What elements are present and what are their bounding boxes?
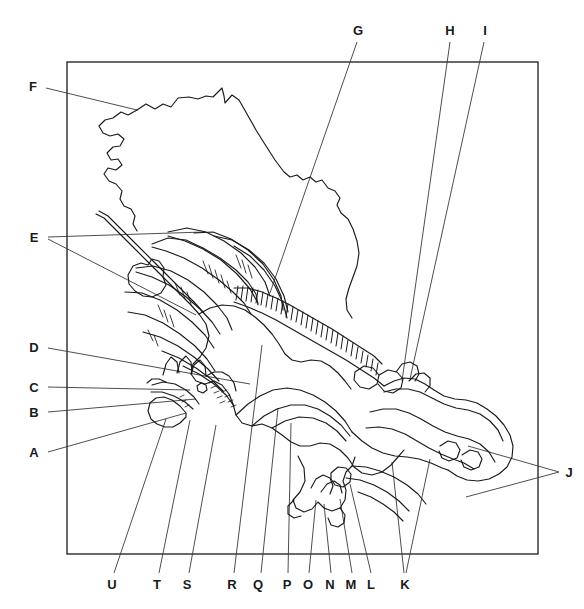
- label-A: A: [29, 446, 38, 459]
- anatomical-figure: [0, 0, 584, 609]
- label-Q: Q: [253, 578, 263, 591]
- label-N: N: [325, 578, 334, 591]
- label-R: R: [227, 578, 236, 591]
- label-M: M: [346, 578, 357, 591]
- label-E: E: [30, 231, 39, 244]
- label-I: I: [483, 24, 487, 37]
- label-D: D: [29, 341, 38, 354]
- label-P: P: [283, 578, 292, 591]
- label-S: S: [183, 578, 192, 591]
- label-L: L: [367, 578, 375, 591]
- label-U: U: [107, 578, 116, 591]
- label-B: B: [29, 406, 38, 419]
- label-O: O: [303, 578, 313, 591]
- label-F: F: [29, 80, 37, 93]
- label-G: G: [353, 24, 363, 37]
- label-J: J: [565, 466, 572, 479]
- label-K: K: [400, 578, 409, 591]
- figure-svg: [0, 0, 584, 609]
- label-H: H: [445, 24, 454, 37]
- label-C: C: [29, 381, 38, 394]
- label-T: T: [153, 578, 161, 591]
